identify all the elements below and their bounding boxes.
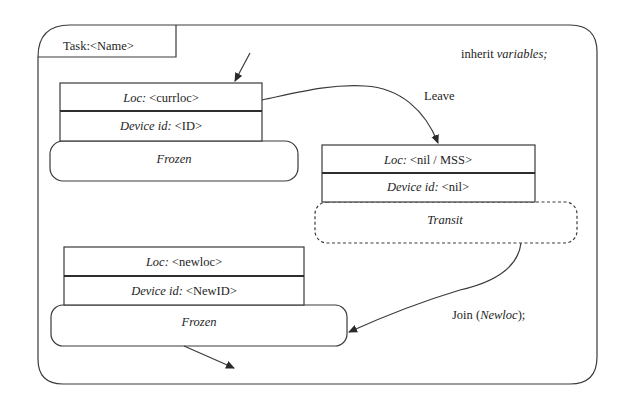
loc-value: <nil / MSS> [410, 153, 472, 167]
state-new-loc: Loc: <newloc> [145, 255, 222, 269]
loc-key: Loc: [122, 91, 146, 105]
task-tab-label: Task:<Name> [63, 39, 134, 53]
leave-transition-arrow [262, 86, 438, 143]
inherit-keyword: inherit [461, 47, 494, 61]
device-value: <ID> [175, 119, 202, 133]
inherit-value: variables; [497, 47, 548, 61]
state-new-status: Frozen [181, 315, 217, 329]
device-key: Device id: [119, 119, 172, 133]
loc-value: <newloc> [172, 255, 222, 269]
state-current-loc: Loc: <currloc> [122, 91, 199, 105]
task-state-diagram: Task:<Name> inherit variables; Loc: <cur… [0, 0, 628, 404]
state-transit: Loc: <nil / MSS> Device id: <nil> Transi… [315, 145, 577, 243]
join-label: Join (Newloc); [452, 308, 525, 322]
state-current-status: Frozen [156, 152, 192, 166]
state-current: Loc: <currloc> Device id: <ID> Frozen [50, 83, 298, 181]
state-transit-loc: Loc: <nil / MSS> [383, 153, 472, 167]
state-current-device: Device id: <ID> [119, 119, 202, 133]
join-arg: Newloc [479, 308, 518, 322]
join-suffix: ); [518, 308, 526, 322]
initial-arrow [235, 53, 250, 81]
inherit-note: inherit variables; [461, 47, 547, 61]
device-value: <NewID> [186, 284, 237, 298]
loc-key: Loc: [145, 255, 169, 269]
state-new-device: Device id: <NewID> [130, 284, 237, 298]
loc-key: Loc: [383, 153, 407, 167]
state-transit-status: Transit [427, 213, 463, 227]
state-new: Loc: <newloc> Device id: <NewID> Frozen [51, 247, 347, 346]
exit-arrow [184, 346, 234, 368]
device-key: Device id: [386, 180, 439, 194]
join-prefix: Join ( [452, 308, 480, 322]
leave-label: Leave [424, 89, 455, 103]
loc-value: <currloc> [149, 91, 199, 105]
device-key: Device id: [130, 284, 183, 298]
device-value: <nil> [442, 180, 469, 194]
state-transit-device: Device id: <nil> [386, 180, 469, 194]
